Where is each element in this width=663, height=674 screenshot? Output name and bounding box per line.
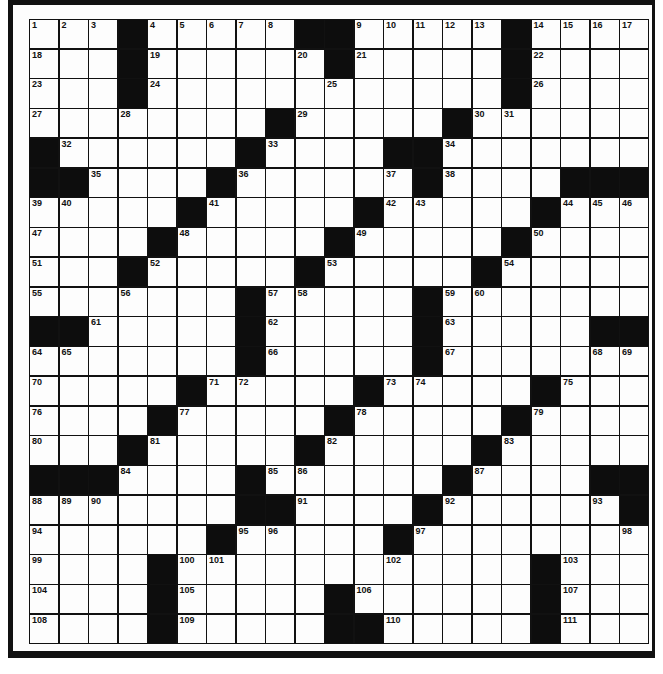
grid-cell[interactable] — [414, 585, 442, 613]
grid-cell[interactable] — [89, 109, 117, 137]
grid-cell[interactable] — [296, 198, 324, 226]
grid-cell[interactable] — [620, 139, 648, 167]
grid-cell[interactable]: 59 — [443, 288, 471, 316]
grid-cell[interactable] — [296, 317, 324, 345]
grid-cell[interactable]: 51 — [30, 258, 58, 286]
grid-cell[interactable] — [355, 109, 383, 137]
grid-cell[interactable] — [591, 288, 619, 316]
grid-cell[interactable] — [591, 258, 619, 286]
grid-cell[interactable] — [502, 466, 530, 494]
grid-cell[interactable] — [296, 169, 324, 197]
grid-cell[interactable] — [148, 198, 176, 226]
grid-cell[interactable]: 102 — [384, 555, 412, 583]
grid-cell[interactable]: 38 — [443, 169, 471, 197]
grid-cell[interactable]: 109 — [178, 615, 206, 643]
grid-cell[interactable] — [502, 198, 530, 226]
grid-cell[interactable] — [296, 407, 324, 435]
grid-cell[interactable]: 86 — [296, 466, 324, 494]
grid-cell[interactable]: 79 — [532, 407, 560, 435]
grid-cell[interactable] — [532, 317, 560, 345]
grid-cell[interactable] — [60, 228, 88, 256]
grid-cell[interactable]: 60 — [473, 288, 501, 316]
grid-cell[interactable] — [119, 169, 147, 197]
grid-cell[interactable] — [296, 615, 324, 643]
grid-cell[interactable] — [414, 615, 442, 643]
grid-cell[interactable] — [178, 50, 206, 78]
grid-cell[interactable] — [620, 407, 648, 435]
grid-cell[interactable] — [119, 139, 147, 167]
grid-cell[interactable] — [60, 79, 88, 107]
grid-cell[interactable] — [414, 228, 442, 256]
grid-cell[interactable] — [178, 317, 206, 345]
grid-cell[interactable] — [178, 139, 206, 167]
grid-cell[interactable]: 11 — [414, 20, 442, 48]
grid-cell[interactable] — [591, 139, 619, 167]
grid-cell[interactable] — [561, 317, 589, 345]
grid-cell[interactable]: 92 — [443, 496, 471, 524]
grid-cell[interactable] — [443, 198, 471, 226]
grid-cell[interactable] — [296, 347, 324, 375]
grid-cell[interactable] — [473, 526, 501, 554]
grid-cell[interactable]: 64 — [30, 347, 58, 375]
grid-cell[interactable] — [384, 466, 412, 494]
grid-cell[interactable] — [178, 496, 206, 524]
grid-cell[interactable] — [443, 555, 471, 583]
grid-cell[interactable] — [620, 50, 648, 78]
grid-cell[interactable]: 49 — [355, 228, 383, 256]
grid-cell[interactable] — [591, 79, 619, 107]
grid-cell[interactable] — [384, 228, 412, 256]
grid-cell[interactable]: 31 — [502, 109, 530, 137]
grid-cell[interactable] — [119, 496, 147, 524]
grid-cell[interactable] — [591, 407, 619, 435]
grid-cell[interactable] — [502, 585, 530, 613]
grid-cell[interactable] — [473, 615, 501, 643]
grid-cell[interactable]: 72 — [237, 377, 265, 405]
grid-cell[interactable] — [60, 555, 88, 583]
grid-cell[interactable]: 65 — [60, 347, 88, 375]
grid-cell[interactable]: 44 — [561, 198, 589, 226]
grid-cell[interactable] — [325, 526, 353, 554]
grid-cell[interactable]: 23 — [30, 79, 58, 107]
grid-cell[interactable]: 84 — [119, 466, 147, 494]
grid-cell[interactable] — [591, 436, 619, 464]
grid-cell[interactable] — [325, 288, 353, 316]
grid-cell[interactable]: 22 — [532, 50, 560, 78]
grid-cell[interactable]: 16 — [591, 20, 619, 48]
grid-cell[interactable] — [325, 139, 353, 167]
grid-cell[interactable]: 111 — [561, 615, 589, 643]
grid-cell[interactable] — [355, 169, 383, 197]
grid-cell[interactable]: 74 — [414, 377, 442, 405]
grid-cell[interactable] — [384, 496, 412, 524]
grid-cell[interactable] — [207, 109, 235, 137]
grid-cell[interactable]: 47 — [30, 228, 58, 256]
grid-cell[interactable] — [60, 526, 88, 554]
grid-cell[interactable] — [148, 377, 176, 405]
grid-cell[interactable] — [89, 198, 117, 226]
grid-cell[interactable] — [119, 228, 147, 256]
grid-cell[interactable] — [266, 407, 294, 435]
grid-cell[interactable] — [561, 139, 589, 167]
grid-cell[interactable] — [355, 555, 383, 583]
grid-cell[interactable] — [620, 79, 648, 107]
grid-cell[interactable] — [502, 555, 530, 583]
grid-cell[interactable] — [620, 288, 648, 316]
grid-cell[interactable] — [384, 407, 412, 435]
grid-cell[interactable] — [325, 377, 353, 405]
grid-cell[interactable] — [266, 585, 294, 613]
grid-cell[interactable] — [532, 139, 560, 167]
grid-cell[interactable]: 35 — [89, 169, 117, 197]
grid-cell[interactable] — [561, 436, 589, 464]
grid-cell[interactable]: 99 — [30, 555, 58, 583]
grid-cell[interactable]: 21 — [355, 50, 383, 78]
grid-cell[interactable] — [473, 79, 501, 107]
grid-cell[interactable]: 25 — [325, 79, 353, 107]
grid-cell[interactable] — [473, 228, 501, 256]
grid-cell[interactable]: 101 — [207, 555, 235, 583]
grid-cell[interactable] — [620, 228, 648, 256]
grid-cell[interactable] — [178, 436, 206, 464]
grid-cell[interactable]: 36 — [237, 169, 265, 197]
grid-cell[interactable] — [119, 615, 147, 643]
grid-cell[interactable] — [443, 258, 471, 286]
grid-cell[interactable]: 33 — [266, 139, 294, 167]
grid-cell[interactable] — [207, 139, 235, 167]
